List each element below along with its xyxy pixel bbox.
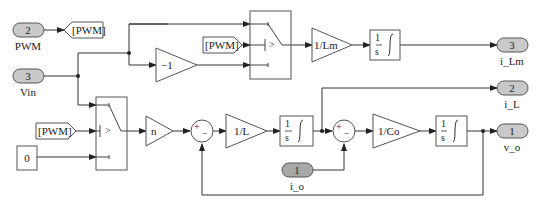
gain-one-over-co-value: 1/Co	[378, 125, 399, 137]
constant-value: 0	[24, 152, 30, 164]
gain-neg-one-value: −1	[161, 59, 173, 71]
sum-2-minus: −	[344, 128, 350, 140]
gain-n-value: n	[151, 125, 157, 137]
outport-v-o-number: 1	[509, 125, 515, 137]
sum-2-plus: +	[336, 121, 342, 133]
outport-i-l-label: i_L	[504, 98, 519, 110]
outport-v-o-label: v_o	[504, 141, 521, 153]
integrator-2-num: 1	[285, 118, 290, 130]
from-pwm-1-tag: [PWM]	[205, 39, 239, 51]
inport-vin-label: Vin	[20, 86, 36, 98]
inport-i-o-label: i_o	[290, 180, 304, 192]
from-pwm-2-tag: [PWM]	[38, 125, 72, 137]
outport-i-lm-label: i_Lm	[500, 55, 524, 67]
integrator-1-den: s	[375, 46, 379, 58]
switch-2[interactable]	[96, 97, 127, 170]
sum-1-plus: +	[194, 121, 200, 133]
inport-vin-number: 3	[25, 70, 31, 82]
switch-2-threshold: >	[105, 125, 111, 137]
switch-1-threshold: >	[269, 39, 275, 51]
integrator-2-den: s	[285, 132, 289, 144]
integrator-3-num: 1	[441, 118, 446, 130]
goto-pwm-tag: [PWM]	[72, 24, 106, 36]
inport-pwm-number: 2	[25, 24, 31, 36]
sum-1-minus: −	[202, 128, 208, 140]
outport-i-lm-number: 3	[509, 39, 515, 51]
integrator-1-num: 1	[375, 32, 380, 44]
gain-one-over-lm-value: 1/Lm	[314, 39, 338, 51]
inport-pwm-label: PWM	[15, 40, 41, 52]
inport-i-o-number: 1	[294, 164, 300, 176]
integrator-3-den: s	[441, 132, 445, 144]
gain-one-over-l-value: 1/L	[234, 125, 249, 137]
outport-i-l-number: 2	[509, 82, 515, 94]
